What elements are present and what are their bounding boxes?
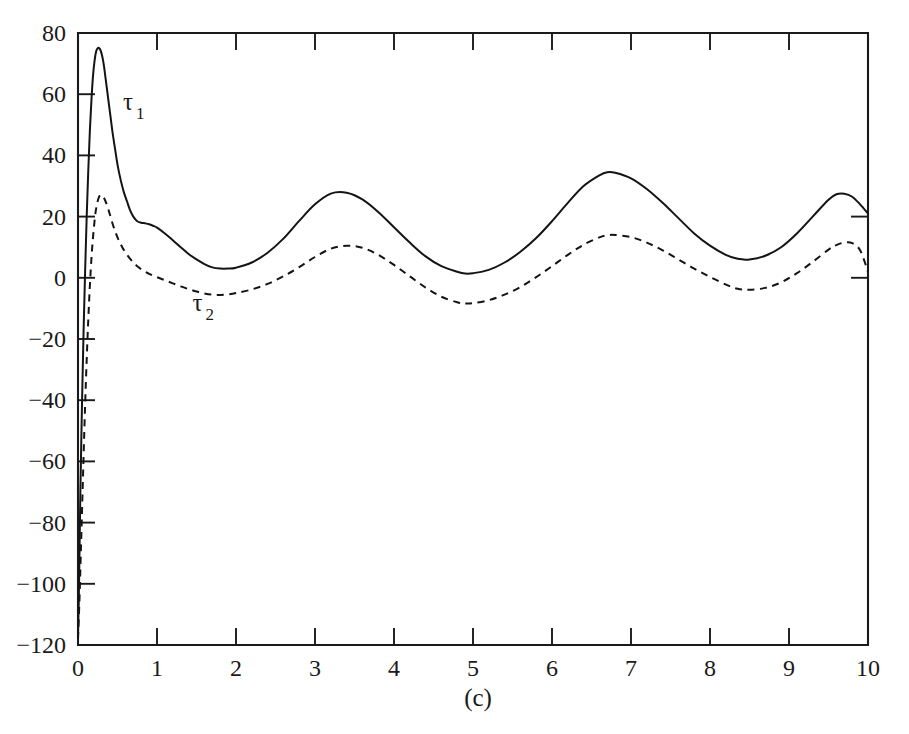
x-tick-label: 10 [856,655,880,681]
x-tick-label: 0 [72,655,84,681]
y-tick-label: −40 [28,387,66,413]
x-tick-label: 4 [388,655,400,681]
y-tick-label: 80 [42,20,66,46]
axes-frame [78,33,868,645]
y-tick-label: 0 [54,265,66,291]
y-axis-ticks [78,94,868,584]
y-tick-label: −20 [28,326,66,352]
y-tick-label: −100 [16,571,66,597]
x-tick-label: 2 [230,655,242,681]
figure-caption: (c) [464,684,492,712]
y-tick-label: −60 [28,448,66,474]
annotation-tau-1: τ1 [123,88,145,123]
x-tick-label: 8 [704,655,716,681]
annotation-symbol: τ [123,88,133,115]
annotation-subscript: 2 [206,305,215,324]
axis-spines [78,33,868,645]
annotation-symbol: τ [193,289,203,316]
x-tick-label: 9 [783,655,795,681]
data-series-group [78,48,868,639]
chart-canvas: −120−100−80−60−40−20020406080 0123456789… [0,0,909,734]
y-axis-tick-labels: −120−100−80−60−40−20020406080 [16,20,66,658]
x-axis-ticks [157,33,789,645]
x-tick-label: 1 [151,655,163,681]
y-tick-label: 40 [42,142,66,168]
x-axis-tick-labels: 012345678910 [72,655,880,681]
x-tick-label: 5 [467,655,479,681]
series-line-tau-1 [78,48,868,636]
x-tick-label: 7 [625,655,637,681]
x-tick-label: 3 [309,655,321,681]
figure-container: −120−100−80−60−40−20020406080 0123456789… [0,0,909,734]
y-tick-label: −80 [28,510,66,536]
annotation-subscript: 1 [136,104,145,123]
x-tick-label: 6 [546,655,558,681]
y-tick-label: 60 [42,81,66,107]
series-line-tau-2 [78,195,868,639]
curve-annotations: τ1τ2 [123,88,214,325]
y-tick-label: 20 [42,204,66,230]
y-tick-label: −120 [16,632,66,658]
